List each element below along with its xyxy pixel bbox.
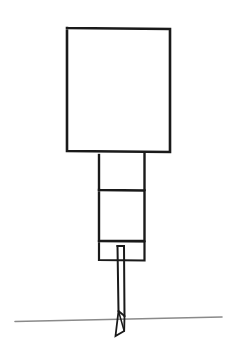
drawing-canvas — [0, 0, 244, 356]
canvas-background — [0, 0, 244, 356]
needle-shaft-left-edge — [118, 246, 119, 311]
needle-shaft-right-edge — [124, 246, 125, 316]
line-drawing-svg — [0, 0, 244, 356]
